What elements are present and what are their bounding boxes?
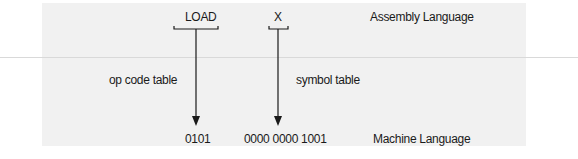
operand-brace-icon: [269, 26, 288, 32]
machine-language-label: Machine Language: [373, 132, 470, 146]
assembly-language-label: Assembly Language: [370, 10, 474, 24]
opcode-arrow-head-icon: [192, 116, 200, 126]
machine-opcode-bits: 0101: [185, 132, 211, 146]
symbol-table-label: symbol table: [296, 73, 360, 87]
machine-operand-bits: 0000 0000 1001: [244, 132, 327, 146]
opcode-brace-icon: [174, 26, 218, 32]
assembly-operand: X: [274, 10, 282, 24]
opcode-table-label: op code table: [109, 73, 177, 87]
assembly-opcode: LOAD: [185, 10, 216, 24]
operand-arrow-head-icon: [274, 116, 282, 126]
